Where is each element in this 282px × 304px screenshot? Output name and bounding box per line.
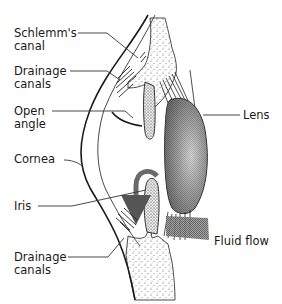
label-schlemms-canal: Schlemm's	[14, 26, 77, 40]
label-iris: Iris	[14, 199, 31, 213]
label-drainage-canals-lower: Drainage	[14, 250, 67, 264]
label-cornea: Cornea	[14, 152, 55, 166]
leader-cornea	[64, 160, 82, 166]
leader-drainage-upper	[70, 71, 120, 80]
label-drainage-canals-lower-2: canals	[14, 263, 51, 277]
drainage-canals-lower	[116, 208, 137, 232]
label-schlemms-canal-2: canal	[14, 39, 45, 53]
label-open-angle-2: angle	[14, 117, 46, 131]
label-open-angle: Open	[14, 104, 45, 118]
label-lens: Lens	[243, 108, 270, 122]
ciliary-process-upper	[144, 82, 156, 139]
label-fluid-flow: Fluid flow	[214, 234, 269, 248]
open-angle-curve	[112, 112, 142, 126]
leader-lines	[38, 33, 240, 257]
leader-drainage-lower	[68, 238, 124, 257]
eye-drainage-diagram: Schlemm's canal Drainage canals Open ang…	[0, 0, 282, 304]
iris	[144, 178, 159, 234]
label-drainage-canals-upper-2: canals	[14, 77, 51, 91]
label-drainage-canals-upper: Drainage	[14, 64, 67, 78]
fluid-flow-band	[166, 216, 209, 240]
leader-open-angle	[52, 111, 133, 118]
